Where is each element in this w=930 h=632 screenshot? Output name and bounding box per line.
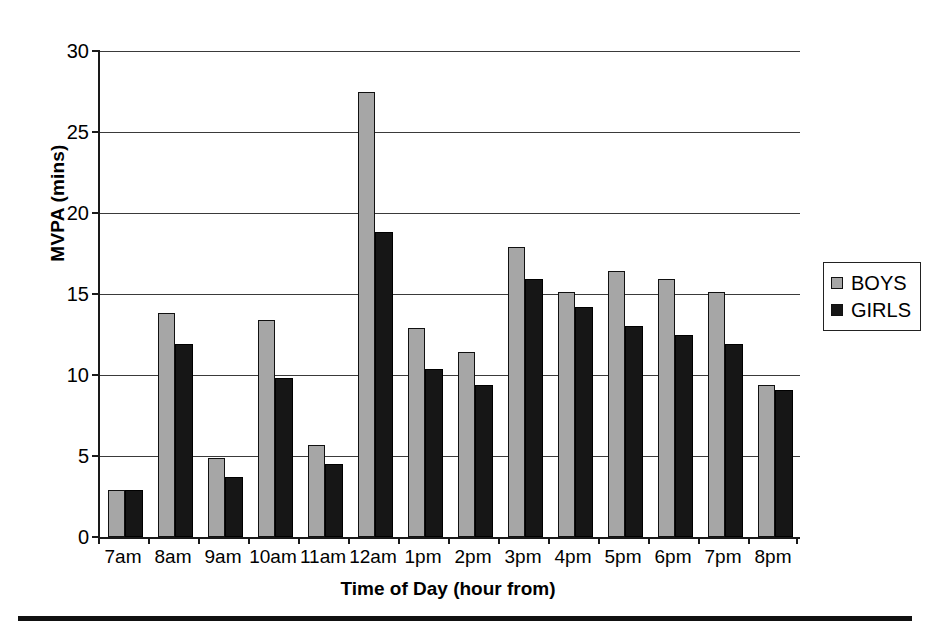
x-tick-label: 9am (205, 546, 242, 568)
bar-girls-7pm (725, 344, 743, 537)
bar-girls-1pm (425, 369, 443, 537)
bar-group (200, 51, 250, 537)
bar-boys-3pm (508, 247, 526, 537)
bar-girls-6pm (675, 335, 693, 538)
bar-girls-9am (225, 477, 243, 537)
bar-girls-12am (375, 232, 393, 537)
y-tick-mark (92, 50, 100, 52)
bar-girls-3pm (525, 279, 543, 537)
bar-boys-5pm (608, 271, 626, 537)
x-tick-7pm: 7pm (698, 537, 748, 577)
bar-boys-8am (158, 313, 176, 537)
legend-entry-boys: BOYS (831, 269, 911, 296)
x-tick-label: 8am (155, 546, 192, 568)
y-tick-mark (92, 374, 100, 376)
x-tick-6pm: 6pm (648, 537, 698, 577)
x-axis-title: Time of Day (hour from) (98, 578, 798, 600)
x-tick-mark (348, 537, 350, 544)
x-tick-7am: 7am (98, 537, 148, 577)
y-axis-title: MVPA (mins) (47, 83, 69, 323)
x-tick-3pm: 3pm (498, 537, 548, 577)
bar-girls-4pm (575, 307, 593, 537)
bar-girls-7am (125, 490, 143, 537)
x-tick-2pm: 2pm (448, 537, 498, 577)
bar-girls-11am (325, 464, 343, 537)
bar-group (100, 51, 150, 537)
bar-group (600, 51, 650, 537)
bar-group (250, 51, 300, 537)
x-tick-label: 1pm (405, 546, 442, 568)
bar-girls-10am (275, 378, 293, 537)
x-tick-5pm: 5pm (598, 537, 648, 577)
page-bottom-rule (18, 616, 912, 621)
x-tick-4pm: 4pm (548, 537, 598, 577)
x-tick-mark (298, 537, 300, 544)
x-tick-9am: 9am (198, 537, 248, 577)
bar-boys-4pm (558, 292, 576, 537)
bar-boys-10am (258, 320, 276, 537)
y-tick-mark (92, 455, 100, 457)
bar-boys-1pm (408, 328, 426, 537)
plot-area: 051015202530 (98, 51, 800, 539)
bar-group (650, 51, 700, 537)
bar-boys-2pm (458, 352, 476, 537)
y-tick-label: 5 (78, 445, 89, 468)
x-tick-label: 10am (249, 546, 297, 568)
x-tick-mark (748, 537, 750, 544)
bar-group (750, 51, 800, 537)
x-tick-mark (598, 537, 600, 544)
bar-group (300, 51, 350, 537)
y-tick-label: 15 (67, 283, 89, 306)
x-tick-label: 6pm (655, 546, 692, 568)
x-tick-label: 7pm (705, 546, 742, 568)
x-tick-mark (648, 537, 650, 544)
x-tick-label: 2pm (455, 546, 492, 568)
bar-group (150, 51, 200, 537)
x-tick-8pm: 8pm (748, 537, 798, 577)
x-tick-mark (148, 537, 150, 544)
x-tick-10am: 10am (248, 537, 298, 577)
y-tick-mark (92, 212, 100, 214)
x-tick-mark (98, 537, 100, 544)
legend-swatch-boys-icon (831, 277, 843, 289)
y-tick-label: 30 (67, 40, 89, 63)
bar-group (550, 51, 600, 537)
bar-girls-5pm (625, 326, 643, 537)
x-tick-mark (548, 537, 550, 544)
y-tick-label: 10 (67, 363, 89, 386)
x-tick-label: 3pm (505, 546, 542, 568)
y-tick-label: 20 (67, 201, 89, 224)
x-tick-mark-end (796, 537, 798, 544)
bar-boys-6pm (658, 279, 676, 537)
bar-group (450, 51, 500, 537)
chart-legend: BOYS GIRLS (823, 262, 921, 331)
y-tick-label: 0 (78, 526, 89, 549)
bar-boys-11am (308, 445, 326, 537)
x-tick-mark (698, 537, 700, 544)
y-tick-mark (92, 131, 100, 133)
y-tick-mark (92, 293, 100, 295)
bars-layer (100, 51, 800, 537)
bar-group (400, 51, 450, 537)
bar-girls-8pm (775, 390, 793, 537)
x-tick-mark (398, 537, 400, 544)
x-axis-ticks: 7am8am9am10am11am12am1pm2pm3pm4pm5pm6pm7… (98, 537, 798, 577)
x-tick-11am: 11am (298, 537, 348, 577)
x-tick-label: 11am (300, 546, 346, 568)
legend-label-boys: BOYS (851, 273, 907, 293)
bar-chart-figure: MVPA (mins) 051015202530 7am8am9am10am11… (0, 0, 930, 632)
x-tick-mark (498, 537, 500, 544)
legend-entry-girls: GIRLS (831, 296, 911, 323)
x-tick-12am: 12am (348, 537, 398, 577)
y-tick-label: 25 (67, 120, 89, 143)
bar-group (500, 51, 550, 537)
bar-boys-7pm (708, 292, 726, 537)
bar-boys-7am (108, 490, 126, 537)
bar-group (700, 51, 750, 537)
x-tick-mark (248, 537, 250, 544)
x-tick-label: 8pm (755, 546, 792, 568)
bar-boys-12am (358, 92, 376, 538)
legend-label-girls: GIRLS (851, 300, 911, 320)
x-tick-mark (198, 537, 200, 544)
x-tick-label: 7am (105, 546, 142, 568)
